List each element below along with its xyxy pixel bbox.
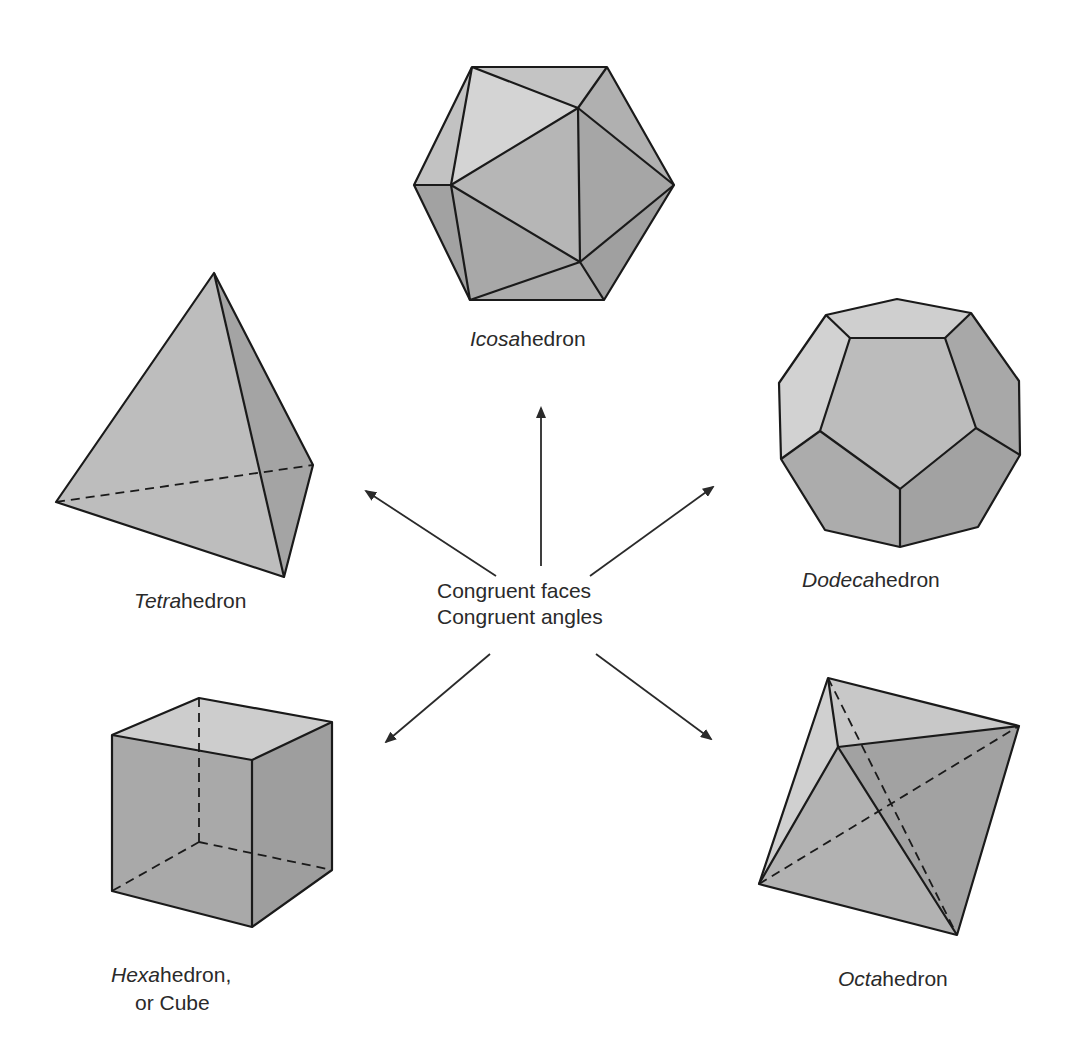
hexahedron-label: Hexahedron, (111, 962, 231, 988)
center-caption-line2: Congruent angles (437, 604, 603, 630)
arrows (366, 408, 713, 742)
icosahedron-label: Icosahedron (470, 326, 586, 352)
octahedron-label-prefix: Octa (838, 967, 882, 990)
cube-figure (112, 698, 332, 927)
dodecahedron-label: Dodecahedron (802, 567, 940, 593)
arrow-to-cube (386, 654, 490, 742)
icosahedron-label-prefix: Icosa (470, 327, 520, 350)
arrow-to-dodecahedron (590, 487, 713, 576)
tetrahedron-figure (56, 273, 313, 577)
arrow-to-octahedron (596, 654, 711, 739)
hexahedron-label-prefix: Hexa (111, 963, 160, 986)
hexahedron-label-suffix: hedron, (160, 963, 231, 986)
dodecahedron-figure (779, 299, 1020, 547)
cube-label: or Cube (135, 990, 210, 1016)
icosahedron-label-suffix: hedron (520, 327, 585, 350)
platonic-solids-diagram (0, 0, 1081, 1060)
icosahedron-figure (414, 67, 674, 300)
center-caption-line1: Congruent faces (437, 578, 603, 604)
dodecahedron-label-prefix: Dodeca (802, 568, 874, 591)
arrow-to-tetrahedron (366, 491, 496, 576)
tetrahedron-label-suffix: hedron (181, 589, 246, 612)
dodecahedron-label-suffix: hedron (874, 568, 939, 591)
center-caption: Congruent faces Congruent angles (437, 578, 603, 630)
octahedron-figure (759, 678, 1019, 935)
tetrahedron-label-prefix: Tetra (134, 589, 181, 612)
tetrahedron-label: Tetrahedron (134, 588, 246, 614)
octahedron-label: Octahedron (838, 966, 948, 992)
octahedron-label-suffix: hedron (882, 967, 947, 990)
